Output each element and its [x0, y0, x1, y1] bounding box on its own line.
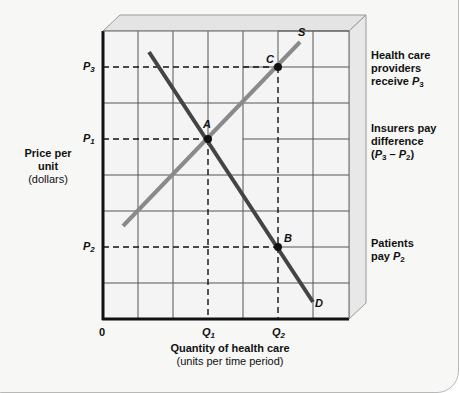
x-tick-q2: Q2: [272, 326, 285, 342]
point-a: [204, 135, 212, 143]
origin-label: 0: [99, 326, 105, 339]
y-tick-p3: P3: [83, 60, 95, 76]
annotation-providers: Health care providers receive P3: [371, 49, 430, 91]
annotation-insurers: Insurers pay difference (P3 – P2): [371, 122, 436, 164]
curve-d-label: D: [315, 297, 323, 310]
point-b-label: B: [284, 232, 292, 245]
y-tick-p1: P1: [83, 132, 95, 148]
point-c: [274, 63, 282, 71]
x-tick-q1: Q1: [202, 326, 215, 342]
point-b: [274, 243, 282, 251]
annotation-patients: Patients pay P2: [371, 237, 414, 266]
point-c-label: C: [266, 53, 274, 66]
x-axis-title: Quantity of health care (units per time …: [150, 342, 310, 368]
box-side-face: [349, 15, 366, 319]
curve-s-label: S: [298, 26, 305, 39]
y-axis-title: Price per unit (dollars): [18, 147, 78, 186]
point-a-label: A: [203, 118, 211, 131]
box-top-face: [103, 15, 366, 31]
y-tick-p2: P2: [83, 240, 95, 256]
